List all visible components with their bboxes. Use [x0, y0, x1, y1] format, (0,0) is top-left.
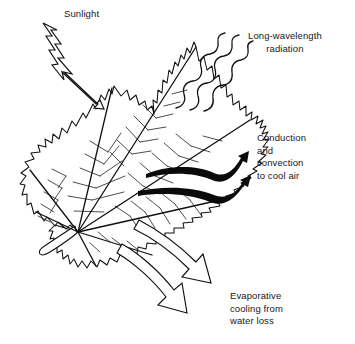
sunlight-arrow [43, 23, 104, 109]
label-sunlight: Sunlight [64, 8, 99, 21]
label-long-wavelength-radiation: Long-wavelength radiation [248, 30, 322, 55]
label-evaporative-cooling: Evaporative cooling from water loss [230, 290, 283, 328]
leaf-energy-balance-figure: Sunlight Long-wavelength radiation Condu… [0, 0, 355, 344]
label-conduction-and-convection: Conduction and convection to cool air [257, 132, 306, 182]
